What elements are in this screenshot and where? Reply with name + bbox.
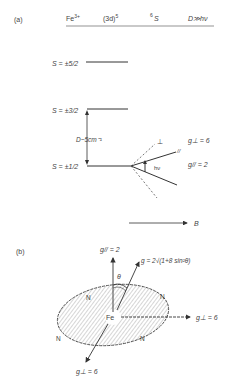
- g-par-label: g// = 2: [188, 161, 208, 169]
- par-symbol: //: [176, 148, 182, 154]
- svg-text:D≫hν: D≫hν: [188, 15, 208, 22]
- svg-text:S: S: [154, 15, 159, 22]
- svg-text:Fe3+: Fe3+: [66, 13, 80, 22]
- level-label-5-2: S = ±5/2: [52, 60, 78, 67]
- parallel-upper-line: [131, 152, 176, 166]
- g-par-label-b: g// = 2: [100, 246, 120, 254]
- panel-b-label: (b): [16, 248, 25, 256]
- header-row: Fe3+ (3d)5 6 S D≫hν: [66, 12, 214, 26]
- level-label-1-2: S = ±1/2: [52, 163, 78, 170]
- svg-text:(3d)5: (3d)5: [103, 13, 118, 23]
- g-formula-label: g = 2√(1+8 sin²θ): [141, 257, 190, 265]
- field-label: B: [194, 220, 199, 227]
- ligand-n4: N: [140, 335, 145, 342]
- ligand-n2: N: [160, 293, 165, 300]
- svg-text:6: 6: [150, 12, 153, 18]
- g-perp-right-label: g⊥ = 6: [196, 314, 218, 322]
- panel-a-label: (a): [14, 16, 23, 24]
- epr-energy-diagram: (a) Fe3+ (3d)5 6 S D≫hν S = ±5/2 S = ±3/…: [0, 0, 226, 385]
- fe-center: Fe: [106, 314, 114, 321]
- ligand-n3: N: [56, 335, 61, 342]
- ligand-n1: N: [86, 294, 91, 301]
- g-perp-label: g⊥ = 6: [188, 137, 210, 145]
- perp-symbol: ⊥: [157, 138, 163, 145]
- level-label-3-2: S = ±3/2: [52, 107, 78, 114]
- splitting-label: D~5cm⁻¹: [76, 136, 103, 143]
- g-perp-bottom-label: g⊥ = 6: [76, 368, 98, 376]
- hv-label: hν: [154, 165, 160, 171]
- theta-label: θ: [117, 273, 121, 280]
